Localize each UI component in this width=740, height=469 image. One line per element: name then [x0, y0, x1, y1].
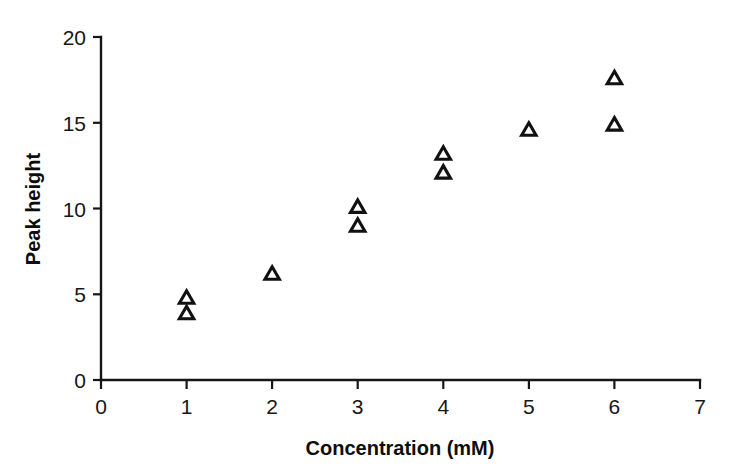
data-point-marker — [607, 118, 621, 130]
x-tick-label-0: 0 — [95, 395, 107, 418]
chart-figure: 0 5 10 15 20 0 1 2 3 4 5 6 7 — [0, 0, 740, 469]
data-point-marker — [179, 291, 193, 303]
x-axis-title: Concentration (mM) — [306, 437, 495, 459]
y-tick-label-0: 0 — [74, 369, 86, 392]
scatter-plot: 0 5 10 15 20 0 1 2 3 4 5 6 7 — [0, 0, 740, 469]
data-point-marker — [522, 123, 536, 135]
x-axis-ticks — [101, 380, 700, 389]
data-point-marker — [179, 306, 193, 318]
x-tick-label-6: 6 — [609, 395, 621, 418]
x-tick-label-3: 3 — [352, 395, 364, 418]
data-point-marker — [607, 71, 621, 83]
x-tick-label-1: 1 — [181, 395, 193, 418]
data-point-marker — [351, 219, 365, 231]
y-tick-label-20: 20 — [63, 26, 86, 49]
y-tick-label-10: 10 — [63, 198, 86, 221]
y-axis-tick-labels: 0 5 10 15 20 — [63, 26, 86, 392]
data-point-marker — [436, 166, 450, 178]
x-tick-label-7: 7 — [694, 395, 706, 418]
x-axis-tick-labels: 0 1 2 3 4 5 6 7 — [95, 395, 706, 418]
data-point-marker — [265, 267, 279, 279]
x-tick-label-4: 4 — [437, 395, 449, 418]
data-point-group — [179, 71, 621, 318]
x-tick-label-2: 2 — [266, 395, 278, 418]
x-tick-label-5: 5 — [523, 395, 535, 418]
data-point-marker — [436, 147, 450, 159]
data-point-marker — [351, 200, 365, 212]
y-tick-label-15: 15 — [63, 112, 86, 135]
y-tick-label-5: 5 — [74, 283, 86, 306]
y-axis-title: Peak height — [22, 153, 44, 266]
